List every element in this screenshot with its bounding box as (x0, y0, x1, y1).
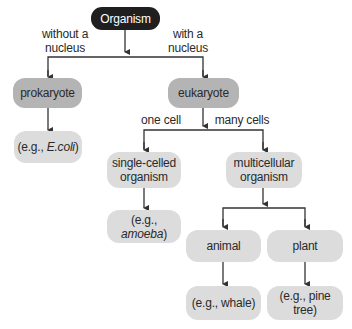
example-species-line: amoeba) (121, 227, 167, 241)
edge-label-without-nucleus: without a nucleus (38, 27, 92, 55)
example-species: E.coli (47, 140, 75, 154)
edge-eukaryote-branches (144, 130, 263, 149)
node-eukaryote: eukaryote (168, 78, 239, 108)
example-suffix: ) (75, 140, 79, 154)
node-single-celled-example: (e.g., amoeba) (107, 210, 181, 243)
node-prokaryote: prokaryote (13, 78, 82, 108)
node-plant: plant (267, 230, 343, 262)
node-animal: animal (186, 230, 261, 262)
edge-root-branches (48, 57, 203, 76)
node-multicellular: multicellular organism (226, 152, 302, 188)
edge-label-one-cell: one cell (136, 113, 186, 127)
node-prokaryote-example: (e.g., E.coli) (14, 131, 82, 163)
edge-label-with-nucleus: with a nucleus (166, 27, 210, 55)
node-plant-example: (e.g., pine tree) (267, 286, 343, 320)
node-single-celled: single-celled organism (107, 152, 181, 188)
example-prefix: (e.g., (131, 213, 157, 227)
example-species: amoeba (121, 227, 163, 241)
example-prefix: (e.g., (17, 140, 46, 154)
node-organism: Organism (91, 7, 160, 30)
example-suffix: ) (163, 227, 167, 241)
edge-multi-branches (223, 208, 305, 226)
edge-label-many-cells: many cells (213, 113, 271, 127)
node-animal-example: (e.g., whale) (186, 286, 261, 320)
